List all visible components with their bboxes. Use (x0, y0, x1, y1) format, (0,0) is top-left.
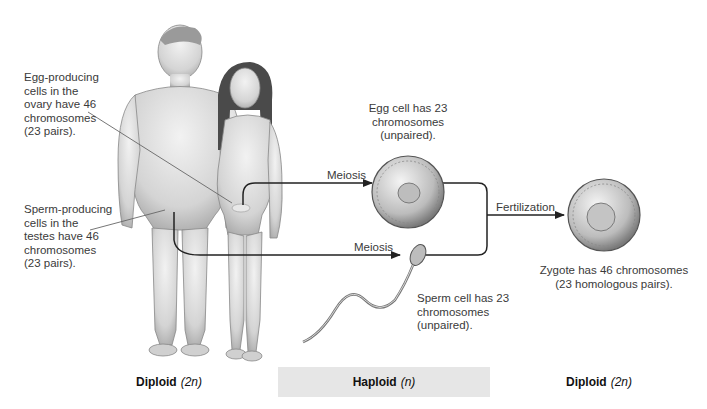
egg-producing-callout: Egg-producing cells in the ovary have 46… (24, 71, 99, 139)
meiosis-label-bottom: Meiosis (354, 241, 393, 255)
band-diploid-left: Diploid(2n) (60, 367, 278, 397)
egg-cell-callout: Egg cell has 23 chromosomes (unpaired). (358, 102, 458, 143)
meiosis-label-top: Meiosis (327, 169, 366, 183)
band-haploid: Haploid(n) (278, 367, 490, 397)
zygote-callout: Zygote has 46 chromosomes (23 homologous… (534, 264, 694, 291)
sperm-producing-callout: Sperm-producing cells in the testes have… (24, 203, 112, 271)
zygote-cell (568, 179, 640, 251)
sperm-cell (303, 242, 429, 342)
female-figure (217, 62, 282, 361)
band-diploid-right: Diploid(2n) (490, 367, 707, 397)
egg-cell (372, 156, 444, 228)
fertilization-label: Fertilization (496, 201, 555, 215)
sperm-cell-callout: Sperm cell has 23 chromosomes (unpaired)… (417, 292, 509, 333)
